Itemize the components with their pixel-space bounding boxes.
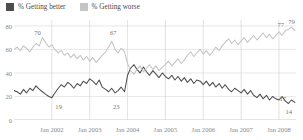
- y-axis-tick-label: 80: [5, 22, 12, 29]
- data-point-label: 67: [110, 28, 117, 35]
- y-axis-tick-label: 60: [5, 46, 12, 53]
- legend-item-getting-better: % Getting better: [6, 3, 66, 11]
- line-chart: % Getting better % Getting worse 0204060…: [0, 0, 303, 140]
- x-axis-tick-label: Jan 2008: [267, 126, 291, 133]
- legend-label-getting-worse: % Getting worse: [92, 3, 140, 11]
- data-point-label: 77: [278, 20, 285, 27]
- legend-item-getting-worse: % Getting worse: [80, 3, 140, 11]
- legend-swatch-better: [6, 3, 14, 11]
- x-axis-labels: Jan 2002Jan 2003Jan 2004Jan 2005Jan 2006…: [14, 124, 296, 138]
- y-axis-tick-label: 40: [5, 69, 12, 76]
- data-point-label: 19: [55, 102, 62, 109]
- x-axis-tick-label: Jan 2004: [116, 126, 140, 133]
- x-axis-tick-label: Jan 2003: [78, 126, 102, 133]
- x-axis-tick-label: Jan 2006: [191, 126, 215, 133]
- series-line-getting-worse: [14, 27, 295, 74]
- x-axis-tick-label: Jan 2007: [229, 126, 253, 133]
- data-point-label: 79: [288, 18, 295, 25]
- data-point-label: 14: [286, 107, 293, 114]
- x-axis-tick-label: Jan 2002: [40, 126, 64, 133]
- series-line-getting-better: [14, 65, 295, 104]
- data-point-label: 17: [279, 94, 286, 101]
- legend-label-getting-better: % Getting better: [18, 3, 66, 11]
- plot-area: 7019672377791714: [14, 20, 296, 120]
- y-axis-tick-label: 20: [5, 93, 12, 100]
- x-axis-tick-label: Jan 2005: [154, 126, 178, 133]
- legend-swatch-worse: [80, 3, 88, 11]
- y-axis-tick-label: 0: [9, 117, 12, 124]
- chart-legend: % Getting better % Getting worse: [6, 3, 140, 11]
- data-point-label: 70: [34, 28, 41, 35]
- data-point-label: 23: [113, 102, 120, 109]
- y-axis-labels: 020406080: [0, 20, 13, 120]
